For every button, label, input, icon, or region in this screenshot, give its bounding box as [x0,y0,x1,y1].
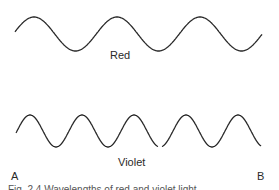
wavelength-diagram: Red Violet A B Fig. 2.4 Wavelengths of r… [0,0,279,190]
endpoint-a-label: A [11,170,18,182]
red-label: Red [110,49,130,61]
red-wave [15,17,262,51]
violet-wave [16,115,158,147]
violet-wave [162,115,261,147]
figure-caption: Fig. 2.4 Wavelengths of red and violet l… [8,184,197,190]
violet-label: Violet [118,156,145,168]
endpoint-b-label: B [257,170,264,182]
